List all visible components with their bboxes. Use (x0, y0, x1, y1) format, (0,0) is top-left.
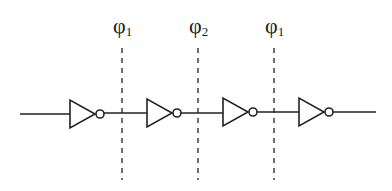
inverter-4 (299, 98, 333, 126)
inverter-1 (70, 100, 104, 128)
inverter-bubble-icon (249, 108, 257, 116)
inverter-triangle-icon (299, 98, 324, 126)
phase-labels: φ1 φ2 φ1 (113, 13, 284, 39)
inverter-bubble-icon (173, 109, 181, 117)
phase-label-2: φ2 (189, 13, 208, 39)
inverter-triangle-icon (147, 99, 172, 127)
inverter-triangle-icon (223, 98, 248, 126)
phase-label-1: φ1 (113, 13, 132, 39)
inverter-2 (147, 99, 181, 127)
inverter-triangle-icon (70, 100, 95, 128)
phase-label-3: φ1 (265, 13, 284, 39)
inverter-bubble-icon (96, 110, 104, 118)
inverter-bubble-icon (325, 108, 333, 116)
inverter-3 (223, 98, 257, 126)
inverter-chain-diagram: φ1 φ2 φ1 (0, 0, 392, 191)
